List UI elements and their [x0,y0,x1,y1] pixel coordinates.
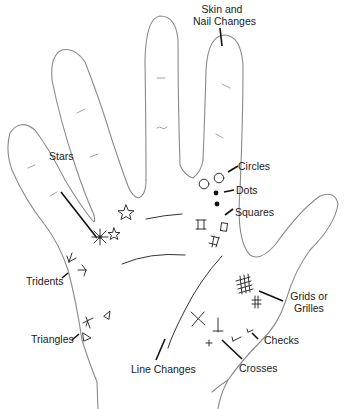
label-tridents: Tridents [26,275,64,287]
label-grids-or-grilles: Grids or Grilles [283,290,335,314]
label-squares: Squares [235,206,274,218]
hand-outline [8,16,338,409]
label-skin-nail-changes: Skin and Nail Changes [193,3,251,27]
label-triangles: Triangles [31,333,74,345]
triangle-icon [83,311,110,341]
check-icon [232,329,253,341]
square-icon [196,220,228,247]
label-crosses: Crosses [239,362,278,374]
circle-icon [199,173,224,189]
label-stars: Stars [49,150,74,162]
hand-diagram: Skin and Nail Changes Stars Circles Dots… [0,0,345,409]
label-skin-nail-line1: Skin and [193,3,251,15]
trident-icon [67,253,86,276]
finger-creases [28,78,230,196]
label-circles: Circles [238,160,270,172]
label-grids-line2: Grilles [283,302,335,314]
hand-outline-drawing [0,0,345,409]
label-checks: Checks [264,334,299,346]
label-skin-nail-line2: Nail Changes [193,15,251,27]
grid-icon [236,274,261,308]
dot-icon [214,191,220,207]
star-icon [92,205,134,245]
label-grids-line1: Grids or [283,290,335,302]
cross-icon [191,312,223,346]
palm-lines [122,214,222,348]
label-line-changes: Line Changes [131,363,196,375]
label-dots: Dots [236,184,258,196]
